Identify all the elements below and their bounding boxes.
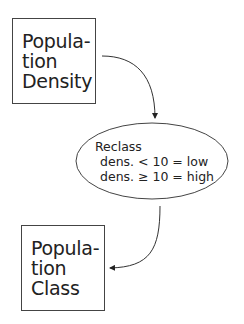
node-label-line: tion	[22, 51, 92, 71]
node-label-line: Density	[22, 71, 92, 91]
node-label-line: Popula-	[31, 238, 99, 258]
arrow-density-to-reclass	[102, 56, 155, 118]
node-label-line: Popula-	[22, 31, 92, 51]
population-density-box: Popula- tion Density	[12, 18, 96, 104]
node-label-line: Class	[31, 278, 99, 298]
reclass-label: Reclass dens. < 10 = low dens. ≥ 10 = hi…	[95, 139, 214, 184]
reclass-rule-low: dens. < 10 = low	[95, 154, 214, 169]
reclass-title: Reclass	[95, 139, 214, 154]
node-label-line: tion	[31, 258, 99, 278]
arrow-reclass-to-class	[110, 206, 160, 268]
population-class-box: Popula- tion Class	[21, 225, 105, 311]
reclass-rule-high: dens. ≥ 10 = high	[95, 169, 214, 184]
